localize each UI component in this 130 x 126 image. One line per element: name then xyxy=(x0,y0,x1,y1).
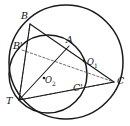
point-label-B: B xyxy=(21,11,28,21)
center-label-O2-subscript: 2 xyxy=(52,80,56,87)
segment-B-through-A-to-C xyxy=(30,24,114,82)
point-label-C: C xyxy=(117,76,124,86)
center-dot-O1 xyxy=(83,60,86,63)
point-label-T: T xyxy=(6,96,12,106)
dashed-segment-Bprime-to-C xyxy=(22,50,114,82)
point-label-B-prime: B' xyxy=(13,41,23,51)
point-label-A: A xyxy=(66,35,73,45)
center-label-O2: O2 xyxy=(45,76,56,87)
center-label-O1-letter: O xyxy=(87,57,94,67)
segment-B-to-T xyxy=(19,24,30,100)
center-label-O1-subscript: 1 xyxy=(94,62,98,69)
center-label-O1: O1 xyxy=(87,58,98,69)
outer-circle xyxy=(9,5,123,119)
figure-canvas xyxy=(0,0,130,126)
geometry-figure: B A C T B' C' O1 O2 xyxy=(0,0,130,126)
point-label-C-prime: C' xyxy=(73,83,83,93)
center-label-O2-letter: O xyxy=(45,75,52,85)
